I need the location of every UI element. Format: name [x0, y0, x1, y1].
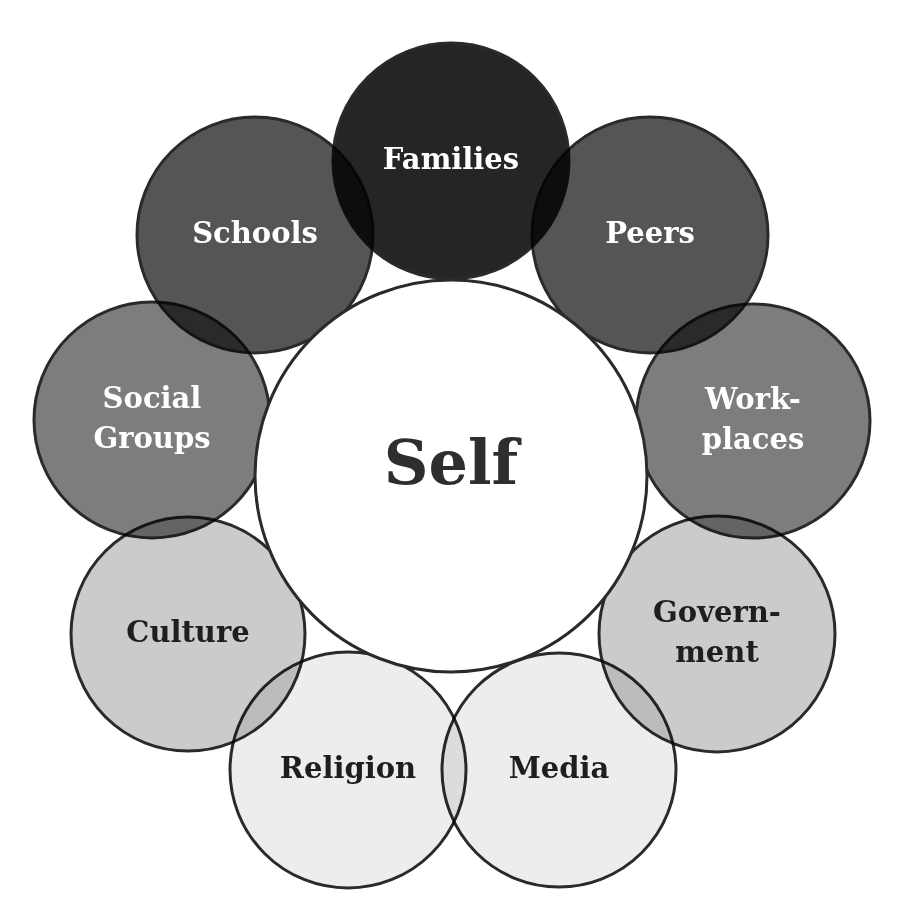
label-line: Social	[103, 381, 202, 415]
label-line: Culture	[126, 615, 249, 649]
label-line: places	[702, 422, 805, 456]
label-media: Media	[509, 751, 610, 785]
label-line: Groups	[93, 421, 210, 455]
label-peers: Peers	[605, 216, 695, 250]
label-line: Peers	[605, 216, 695, 250]
label-culture: Culture	[126, 615, 249, 649]
label-line: Schools	[192, 216, 318, 250]
label-religion: Religion	[280, 751, 416, 785]
label-line: ment	[675, 635, 759, 669]
label-line: Families	[383, 142, 519, 176]
label-line: Religion	[280, 751, 416, 785]
label-line: Media	[509, 751, 610, 785]
socialization-diagram: Self FamiliesPeersWork-placesGovern-ment…	[0, 0, 908, 920]
label-families: Families	[383, 142, 519, 176]
label-schools: Schools	[192, 216, 318, 250]
center-label-self: Self	[384, 426, 522, 499]
circle-workplaces	[636, 304, 870, 538]
center-circle-group: Self	[255, 280, 647, 672]
label-line: Govern-	[653, 595, 781, 629]
label-line: Work-	[704, 382, 801, 416]
